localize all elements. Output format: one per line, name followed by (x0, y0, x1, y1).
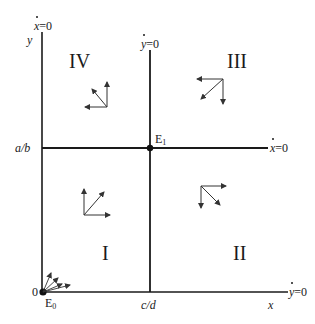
region-iii-label: III (227, 51, 247, 71)
origin-label: 0 (32, 286, 38, 298)
x-dot-var-right: x (270, 141, 275, 155)
equilibrium-e1-dot (147, 145, 153, 151)
region-ii-label: II (233, 243, 246, 263)
y-dot-eq: =0 (146, 37, 159, 51)
direction-arrows-origin-fan (43, 273, 70, 292)
y-axis-label: y (27, 34, 32, 46)
region-iv-label: IV (69, 51, 90, 71)
y-tick-a-over-b: a/b (15, 142, 30, 154)
e1-sub: 1 (162, 138, 166, 147)
x-dot-var: x (34, 19, 39, 33)
x-dot-nullcline-label-right: x=0 (270, 142, 288, 154)
region-i-label: I (102, 243, 109, 263)
e0-sub: 0 (52, 302, 56, 311)
x-tick-c-over-d: c/d (141, 299, 156, 311)
equilibrium-e1-label: E1 (155, 133, 166, 147)
y-dot-var-right: y (289, 285, 294, 299)
direction-arrows-region-iv (85, 82, 107, 107)
y-dot-nullcline-label-top: y=0 (141, 38, 159, 50)
y-dot-eq-right: =0 (294, 285, 307, 299)
direction-arrows-region-i (84, 189, 110, 215)
direction-arrows-region-ii (201, 186, 226, 208)
x-axis-label: x (268, 299, 273, 311)
y-dot-var: y (141, 37, 146, 51)
x-dot-eq: =0 (39, 19, 52, 33)
equilibrium-e0-label: E0 (45, 297, 56, 311)
x-dot-nullcline-label-top: x=0 (34, 20, 52, 32)
direction-arrows-region-iii (197, 79, 223, 104)
y-dot-nullcline-label-right: y=0 (289, 286, 307, 298)
x-dot-eq-right: =0 (275, 141, 288, 155)
